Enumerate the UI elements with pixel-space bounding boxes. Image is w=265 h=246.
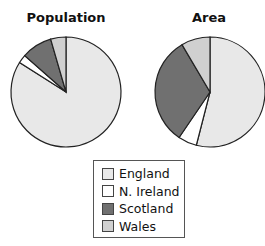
wales-swatch <box>102 220 114 232</box>
england-swatch <box>102 168 114 180</box>
area-chart-title: Area <box>149 10 265 25</box>
legend-item-scotland: Scotland <box>102 200 184 218</box>
legend-label: N. Ireland <box>119 184 180 199</box>
population-pie <box>8 34 124 150</box>
legend-item-n-ireland: N. Ireland <box>102 183 184 201</box>
legend-label: England <box>119 166 170 181</box>
legend: England N. Ireland Scotland Wales <box>93 160 185 238</box>
legend-item-wales: Wales <box>102 218 184 236</box>
area-pie <box>152 34 265 150</box>
population-chart-title: Population <box>6 10 126 25</box>
legend-label: Wales <box>119 219 156 234</box>
legend-item-england: England <box>102 165 184 183</box>
legend-label: Scotland <box>119 201 173 216</box>
scotland-swatch <box>102 203 114 215</box>
n-ireland-swatch <box>102 185 114 197</box>
